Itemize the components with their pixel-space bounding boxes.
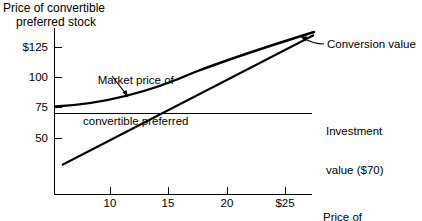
x-axis-tick-label-15: 15 (148, 197, 188, 209)
x-axis-tick-label-25: $25 (265, 197, 305, 209)
y-axis-tick-label-75: 75 (8, 101, 48, 113)
investment-value-line-1: Investment (326, 125, 384, 138)
conversion-value-annotation: Conversion value (327, 38, 416, 51)
y-axis-tick-label-50: 50 (8, 132, 48, 144)
x-axis-tick-label-20: 20 (207, 197, 247, 209)
y-axis-tick-label-125: $125 (8, 41, 48, 53)
market-price-annotation-line-1: Market price of (83, 74, 188, 88)
market-price-annotation: Market price of convertible preferred (83, 47, 188, 155)
market-price-annotation-line-2: convertible preferred (83, 115, 188, 129)
chart-figure: Price of convertiblepreferred stock $125… (0, 0, 422, 221)
x-axis-label-line-1: Price of (323, 211, 397, 221)
x-axis-label: Price of common stock (323, 185, 397, 221)
investment-value-line-2: value ($70) (326, 164, 384, 177)
x-axis-tick-label-10: 10 (90, 197, 130, 209)
y-axis-tick-label-100: 100 (8, 71, 48, 83)
